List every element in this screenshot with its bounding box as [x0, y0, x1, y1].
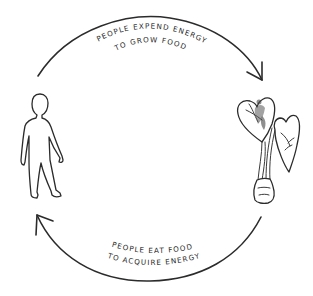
- top-label-line2: TO GROW FOOD: [112, 35, 188, 53]
- arrowhead-icon: [247, 62, 262, 80]
- bottom-label: PEOPLE EAT FOOD TO ACQUIRE ENERGY: [106, 240, 202, 267]
- top-label: PEOPLE EXPEND ENERGY TO GROW FOOD: [95, 21, 209, 53]
- bottom-label-line1: PEOPLE EAT FOOD: [111, 240, 194, 255]
- plant-icon: [238, 98, 300, 203]
- energy-food-cycle-diagram: PEOPLE EXPEND ENERGY TO GROW FOOD PEOPLE…: [0, 0, 313, 296]
- diagram-canvas: PEOPLE EXPEND ENERGY TO GROW FOOD PEOPLE…: [0, 0, 313, 296]
- person-icon: [21, 94, 63, 198]
